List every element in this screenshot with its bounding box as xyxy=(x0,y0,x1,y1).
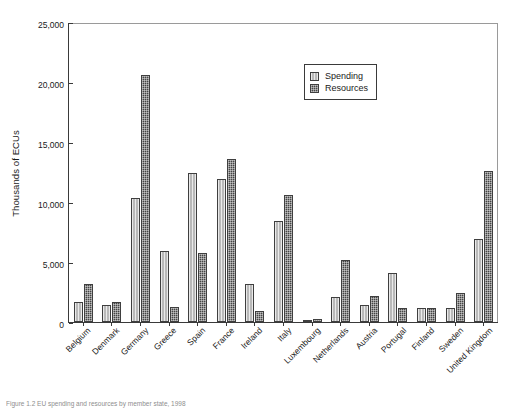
x-axis-tick-label: Belgium xyxy=(65,326,93,354)
x-axis-tick-label: Ireland xyxy=(240,326,265,351)
bar-resources xyxy=(198,253,207,322)
legend-swatch-spending-icon xyxy=(310,72,319,81)
bar-resources xyxy=(456,293,465,322)
x-axis-tick-label: Finland xyxy=(411,326,437,352)
y-axis-tick-label: 20,000 xyxy=(38,81,69,90)
y-axis-tick-label: 5,000 xyxy=(43,261,69,270)
y-axis-tick-label: 10,000 xyxy=(38,201,69,210)
y-axis-title: Thousands of ECUs xyxy=(8,23,22,323)
x-axis-tick-label: Denmark xyxy=(91,326,122,357)
legend-label-resources: Resources xyxy=(325,83,368,93)
y-axis-tick-mark xyxy=(69,263,73,264)
x-axis-tick-label: Italy xyxy=(276,326,293,343)
bar-resources xyxy=(284,195,293,322)
bar-spending xyxy=(102,305,111,322)
y-axis-tick-mark xyxy=(69,83,73,84)
bar-resources xyxy=(112,302,121,322)
bar-group xyxy=(384,23,413,322)
y-axis-tick-mark xyxy=(69,203,73,204)
figure: Thousands of ECUs 05,00010,00015,00020,0… xyxy=(0,0,511,412)
x-axis-tick-label: Austria xyxy=(354,326,379,351)
y-axis-tick: 25,000 xyxy=(38,14,69,32)
bar-resources xyxy=(484,171,493,322)
bar-resources xyxy=(341,260,350,322)
x-axis-tick-label: Germany xyxy=(119,326,150,357)
bar-group xyxy=(183,23,212,322)
bar-spending xyxy=(217,179,226,322)
bar-group xyxy=(155,23,184,322)
x-axis-tick-label: Greece xyxy=(153,326,179,352)
bar-spending xyxy=(417,308,426,322)
bar-group xyxy=(69,23,98,322)
bar-group xyxy=(241,23,270,322)
y-axis-tick: 20,000 xyxy=(38,74,69,92)
x-axis-tick-labels: BelgiumDenmarkGermanyGreeceSpainFranceIr… xyxy=(68,326,498,398)
bar-spending xyxy=(245,284,254,322)
legend-swatch-resources-icon xyxy=(310,84,319,93)
bar-spending xyxy=(188,173,197,322)
y-axis-tick: 10,000 xyxy=(38,194,69,212)
bar-spending xyxy=(360,305,369,322)
bar-spending xyxy=(74,302,83,322)
y-axis-tick-mark xyxy=(69,23,73,24)
x-axis-tick-label: Spain xyxy=(186,326,208,348)
figure-caption: Figure 1.2 EU spending and resources by … xyxy=(6,400,426,408)
y-axis-tick-label: 25,000 xyxy=(38,21,69,30)
bar-resources xyxy=(227,159,236,322)
bar-spending xyxy=(303,320,312,322)
bar-resources xyxy=(313,319,322,322)
plot-area: 05,00010,00015,00020,00025,000 xyxy=(68,23,498,323)
y-axis-tick: 15,000 xyxy=(38,134,69,152)
bar-resources xyxy=(427,308,436,322)
x-axis-tick-label: Portugal xyxy=(379,326,408,355)
legend-item-resources: Resources xyxy=(310,83,368,93)
bar-resources xyxy=(370,296,379,322)
bar-series-container xyxy=(69,23,498,322)
bar-resources xyxy=(170,307,179,322)
bar-spending xyxy=(274,221,283,322)
x-axis-tick-label: France xyxy=(211,326,236,351)
bar-spending xyxy=(131,198,140,322)
bar-spending xyxy=(388,273,397,322)
y-axis-tick: 5,000 xyxy=(43,254,69,272)
legend-label-spending: Spending xyxy=(325,71,363,81)
bar-resources xyxy=(141,75,150,322)
y-axis-tick-mark xyxy=(69,323,73,324)
bar-resources xyxy=(84,284,93,322)
y-axis-tick-mark xyxy=(69,143,73,144)
legend-item-spending: Spending xyxy=(310,71,368,81)
bar-spending xyxy=(446,308,455,322)
bar-group xyxy=(126,23,155,322)
bar-spending xyxy=(474,239,483,322)
bar-group xyxy=(98,23,127,322)
bar-spending xyxy=(331,297,340,322)
y-axis-title-text: Thousands of ECUs xyxy=(10,130,21,217)
chart-legend: Spending Resources xyxy=(304,64,377,100)
y-axis-tick-label: 15,000 xyxy=(38,141,69,150)
bar-group xyxy=(212,23,241,322)
bar-spending xyxy=(160,251,169,322)
bar-group xyxy=(469,23,498,322)
bar-group xyxy=(269,23,298,322)
bar-resources xyxy=(398,308,407,322)
bar-resources xyxy=(255,311,264,322)
bar-group xyxy=(441,23,470,322)
bar-group xyxy=(412,23,441,322)
